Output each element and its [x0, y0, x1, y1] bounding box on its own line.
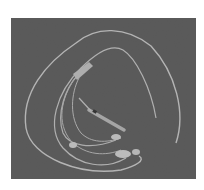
catheter-photo: [11, 18, 196, 179]
catheter-illustration: [11, 18, 196, 179]
